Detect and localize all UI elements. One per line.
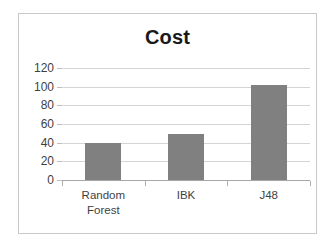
x-axis-tick <box>227 181 228 186</box>
y-axis-labels: 020406080100120 <box>20 68 54 180</box>
x-axis-labels: RandomForestIBKJ48 <box>62 188 310 230</box>
y-axis-tick-label: 40 <box>20 137 54 149</box>
y-axis-tick <box>57 143 62 144</box>
gridline <box>62 68 310 69</box>
y-axis-tick <box>57 68 62 69</box>
bar <box>251 85 287 180</box>
y-axis-tick <box>57 161 62 162</box>
chart-canvas: Cost 020406080100120 RandomForestIBKJ48 <box>0 0 333 252</box>
y-axis-tick-label: 120 <box>20 62 54 74</box>
chart-title: Cost <box>18 26 317 48</box>
x-axis-category-label: J48 <box>228 188 310 203</box>
y-axis-tick-label: 60 <box>20 118 54 130</box>
x-axis-tick <box>62 181 63 186</box>
y-axis-tick <box>57 87 62 88</box>
y-axis-tick-label: 0 <box>20 174 54 186</box>
x-axis-label-line: Random <box>62 188 144 203</box>
x-axis-label-line: J48 <box>228 188 310 203</box>
y-axis-tick <box>57 105 62 106</box>
y-axis-tick-label: 20 <box>20 155 54 167</box>
x-axis-tick <box>145 181 146 186</box>
bar <box>168 134 204 180</box>
x-axis-label-line: Forest <box>62 203 144 218</box>
y-axis-tick-label: 80 <box>20 99 54 111</box>
x-axis-tick <box>310 181 311 186</box>
y-axis-tick-label: 100 <box>20 81 54 93</box>
x-axis-category-label: IBK <box>145 188 227 203</box>
plot-area <box>62 68 310 180</box>
x-axis-category-label: RandomForest <box>62 188 144 218</box>
y-axis-tick <box>57 124 62 125</box>
bar <box>85 143 121 180</box>
x-axis-line <box>62 180 310 181</box>
x-axis-label-line: IBK <box>145 188 227 203</box>
